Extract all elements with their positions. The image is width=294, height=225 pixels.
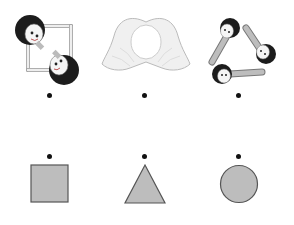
- kid-head-a: [220, 18, 240, 38]
- picture-dot-3[interactable]: [236, 93, 241, 98]
- shape-dot-square[interactable]: [47, 154, 52, 159]
- picture-dot-1[interactable]: [47, 93, 52, 98]
- shape-dot-circle[interactable]: [236, 154, 241, 159]
- kid-head-2: [49, 50, 79, 85]
- kid-head-c: [212, 64, 232, 84]
- kid-head-b: [256, 44, 276, 64]
- three-kids-triangle-picture: [200, 10, 284, 86]
- shape-dot-triangle[interactable]: [142, 154, 147, 159]
- hands-circle-picture: [100, 8, 192, 80]
- triangle-shape: [123, 163, 167, 205]
- kid-head-1: [15, 15, 45, 50]
- square-shape: [30, 164, 70, 204]
- two-kids-square-picture: [8, 8, 92, 88]
- picture-dot-2[interactable]: [142, 93, 147, 98]
- circle-shape: [219, 164, 259, 204]
